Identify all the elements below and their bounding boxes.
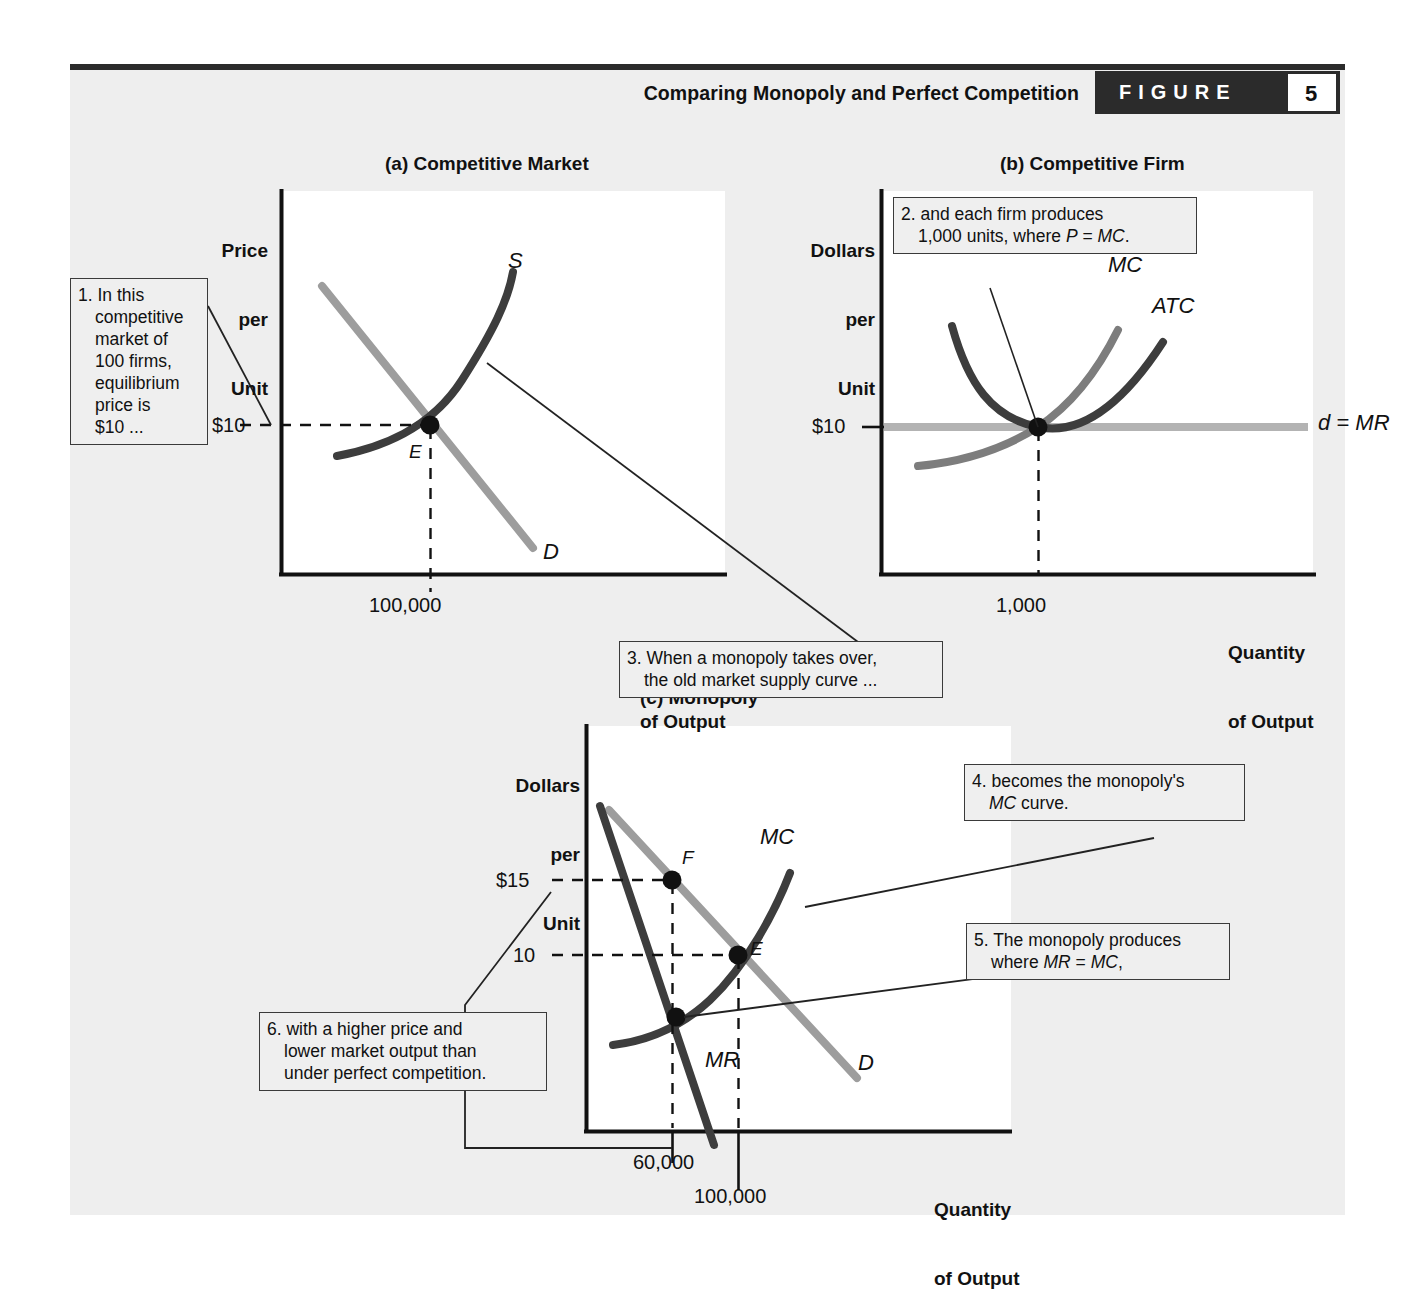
callout-3-text1: When a monopoly takes over, [646, 648, 877, 668]
panel-b-ytick-10: $10 [812, 415, 845, 438]
panel-b-x-axis-label: Quantity of Output [1228, 595, 1313, 779]
callout-1-line2: competitive [78, 306, 200, 328]
panel-c-xtick-60000: 60,000 [633, 1151, 694, 1174]
callout-2-line1: 2. and each firm produces [901, 203, 1189, 225]
callout-4: 4. becomes the monopoly's MC curve. [964, 764, 1245, 821]
callout-5-text2-mid: = [1071, 952, 1091, 972]
callout-3: 3. When a monopoly takes over, the old m… [619, 641, 943, 698]
panel-c-ytick-15: $15 [496, 869, 529, 892]
panel-b-d-mr-label: d = MR [1318, 410, 1390, 436]
panel-c-mc-label: MC [760, 824, 794, 850]
panel-c-x-axis-label-line1: Quantity [934, 1198, 1019, 1221]
callout-1-line7: $10 ... [78, 416, 200, 438]
callout-6-number: 6. [267, 1019, 282, 1039]
panel-c-x-axis-label: Quantity of Output [934, 1152, 1019, 1293]
panel-b-y-axis-label-line1: Dollars [779, 239, 875, 262]
callout-6-line2: lower market output than [267, 1040, 539, 1062]
panel-a-x-axis-label-line2: of Output [640, 710, 725, 733]
panel-c-ytick-10: 10 [513, 944, 535, 967]
panel-b-title: (b) Competitive Firm [1000, 153, 1185, 175]
callout-2: 2. and each firm produces 1,000 units, w… [893, 197, 1197, 254]
panel-c-xtick-100000: 100,000 [694, 1185, 766, 1208]
callout-3-number: 3. [627, 648, 642, 668]
panel-b-atc-label: ATC [1152, 293, 1194, 319]
panel-a-point-E-label: E [409, 441, 422, 463]
callout-5-text2-var1: MR [1044, 952, 1071, 972]
callout-5-line1: 5. The monopoly produces [974, 929, 1222, 951]
callout-5: 5. The monopoly produces where MR = MC, [966, 923, 1230, 980]
callout-2-line2: 1,000 units, where P = MC. [901, 225, 1189, 247]
panel-b-x-axis-label-line2: of Output [1228, 710, 1313, 733]
callout-1-number: 1. [78, 285, 93, 305]
callout-2-text2-var1: P [1066, 226, 1078, 246]
callout-1-line1: 1. In this [78, 284, 200, 306]
callout-5-text2-post: , [1118, 952, 1123, 972]
panel-b-y-axis-label-line3: Unit [779, 377, 875, 400]
callout-5-text2-var2: MC [1091, 952, 1118, 972]
callout-1: 1. In this competitive market of 100 fir… [70, 278, 208, 445]
panel-c-point-F-label: F [682, 847, 694, 869]
panel-c-x-axis-label-line2: of Output [934, 1267, 1019, 1290]
panel-c-y-axis-label-line2: per [484, 843, 580, 866]
callout-2-text2-post: . [1125, 226, 1130, 246]
callout-4-text2-var: MC [989, 793, 1016, 813]
panel-c-point-E-label: E [750, 938, 763, 960]
callout-3-line2: the old market supply curve ... [627, 669, 935, 691]
panel-b-xtick-1000: 1,000 [996, 594, 1046, 617]
callout-6-line3: under perfect competition. [267, 1062, 539, 1084]
panel-a-y-axis-label-line1: Price [190, 239, 268, 262]
panel-a-xtick-100000: 100,000 [369, 594, 441, 617]
callout-1-line3: market of [78, 328, 200, 350]
callout-5-text2-pre: where [991, 952, 1044, 972]
callout-4-line2: MC curve. [972, 792, 1237, 814]
callout-4-number: 4. [972, 771, 987, 791]
callout-2-number: 2. [901, 204, 916, 224]
callout-1-line4: 100 firms, [78, 350, 200, 372]
callout-1-line5: equilibrium [78, 372, 200, 394]
panel-b-y-axis-label-line2: per [779, 308, 875, 331]
panel-a-supply-label: S [508, 248, 523, 274]
panel-c-demand-label: D [858, 1050, 874, 1076]
callout-6: 6. with a higher price and lower market … [259, 1012, 547, 1091]
panel-b-y-axis-label: Dollars per Unit [779, 193, 875, 446]
callout-5-number: 5. [974, 930, 989, 950]
callout-2-text2-pre: 1,000 units, where [918, 226, 1066, 246]
figure-header-title: Comparing Monopoly and Perfect Competiti… [644, 82, 1079, 105]
panel-b-mc-label: MC [1108, 252, 1142, 278]
panel-a-demand-label: D [543, 539, 559, 565]
callout-5-text1: The monopoly produces [993, 930, 1181, 950]
panel-b-x-axis-label-line1: Quantity [1228, 641, 1313, 664]
callout-4-text1: becomes the monopoly's [991, 771, 1184, 791]
panel-a-title: (a) Competitive Market [385, 153, 589, 175]
callout-2-text1: and each firm produces [920, 204, 1103, 224]
figure-number-value: 5 [1305, 81, 1317, 107]
panel-c-y-axis-label-line3: Unit [484, 912, 580, 935]
callout-5-line2: where MR = MC, [974, 951, 1222, 973]
panel-c-mr-label: MR [705, 1047, 739, 1073]
callout-4-line1: 4. becomes the monopoly's [972, 770, 1237, 792]
callout-4-text2-post: curve. [1016, 793, 1069, 813]
panel-a-ytick-10: $10 [212, 414, 245, 437]
callout-2-text2-mid: = [1078, 226, 1098, 246]
callout-6-text1: with a higher price and [286, 1019, 462, 1039]
figure-word-label: FIGURE [1119, 81, 1237, 104]
panel-c-y-axis-label-line1: Dollars [484, 774, 580, 797]
callout-6-line1: 6. with a higher price and [267, 1018, 539, 1040]
callout-1-text1: In this [97, 285, 144, 305]
callout-3-line1: 3. When a monopoly takes over, [627, 647, 935, 669]
callout-2-text2-var2: MC [1098, 226, 1125, 246]
callout-1-line6: price is [78, 394, 200, 416]
